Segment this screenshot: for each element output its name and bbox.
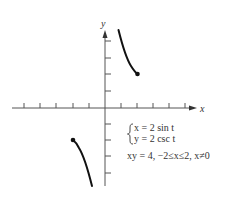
x-axis-arrow-icon — [189, 106, 197, 111]
x-axis-label: x — [199, 103, 205, 114]
lower-curve — [73, 140, 92, 186]
lower-endpoint-dot — [71, 138, 76, 143]
equation-y: y = 2 csc t — [134, 133, 175, 145]
y-ticks — [105, 41, 111, 173]
equation-relation: xy = 4, −2≤x≤2, x≠0 — [127, 150, 210, 162]
upper-endpoint-dot — [135, 72, 140, 77]
equation-brace — [128, 124, 134, 144]
upper-curve — [119, 30, 138, 74]
graph: y x — [0, 0, 250, 201]
y-axis-label: y — [100, 18, 106, 29]
y-axis-arrow-icon — [103, 30, 108, 38]
